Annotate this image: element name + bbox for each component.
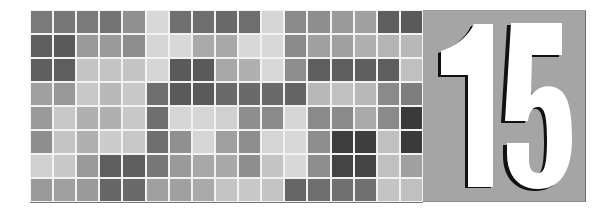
mosaic-cell	[262, 11, 283, 33]
mosaic-cell	[31, 35, 52, 57]
mosaic-cell	[31, 179, 52, 201]
mosaic-cell	[147, 11, 168, 33]
mosaic-cell	[170, 83, 191, 105]
mosaic-cell	[193, 59, 214, 81]
mosaic-cell	[77, 59, 98, 81]
mosaic-cell	[308, 155, 329, 177]
mosaic-cell	[100, 131, 121, 153]
mosaic-cell	[31, 155, 52, 177]
mosaic-cell	[262, 59, 283, 81]
mosaic-cell	[332, 107, 353, 129]
mosaic-cell	[193, 11, 214, 33]
mosaic-cell	[262, 35, 283, 57]
mosaic-cell	[262, 179, 283, 201]
mosaic-cell	[401, 155, 422, 177]
mosaic-cell	[239, 107, 260, 129]
mosaic-cell	[285, 83, 306, 105]
mosaic-cell	[216, 107, 237, 129]
mosaic-cell	[355, 155, 376, 177]
mosaic-cell	[216, 35, 237, 57]
mosaic-cell	[100, 155, 121, 177]
mosaic-cell	[285, 155, 306, 177]
mosaic-cell	[355, 179, 376, 201]
mosaic-cell	[147, 155, 168, 177]
mosaic-cell	[355, 107, 376, 129]
mosaic-cell	[308, 107, 329, 129]
mosaic-cell	[332, 59, 353, 81]
mosaic-cell	[332, 155, 353, 177]
mosaic-cell	[77, 107, 98, 129]
mosaic-cell	[193, 107, 214, 129]
mosaic-cell	[216, 179, 237, 201]
mosaic-cell	[308, 11, 329, 33]
mosaic-cell	[239, 179, 260, 201]
mosaic-cell	[216, 83, 237, 105]
mosaic-cell	[147, 179, 168, 201]
mosaic-cell	[401, 179, 422, 201]
mosaic-cell	[262, 131, 283, 153]
mosaic-cell	[170, 11, 191, 33]
mosaic-cell	[401, 59, 422, 81]
mosaic-cell	[378, 35, 399, 57]
mosaic-cell	[216, 59, 237, 81]
mosaic-cell	[308, 83, 329, 105]
mosaic-cell	[54, 107, 75, 129]
mosaic-cell	[77, 11, 98, 33]
mosaic-cell	[77, 35, 98, 57]
mosaic-cell	[77, 179, 98, 201]
mosaic-cell	[332, 131, 353, 153]
mosaic-cell	[378, 11, 399, 33]
mosaic-cell	[239, 59, 260, 81]
mosaic-cell	[285, 107, 306, 129]
mosaic-cell	[216, 155, 237, 177]
mosaic-cell	[170, 179, 191, 201]
mosaic-cell	[77, 155, 98, 177]
mosaic-cell	[100, 107, 121, 129]
mosaic-cell	[123, 107, 144, 129]
mosaic-cell	[54, 179, 75, 201]
mosaic-cell	[216, 131, 237, 153]
mosaic-cell	[100, 59, 121, 81]
mosaic-cell	[123, 35, 144, 57]
mosaic-cell	[355, 131, 376, 153]
mosaic-cell	[147, 83, 168, 105]
mosaic-cell	[239, 83, 260, 105]
mosaic-cell	[123, 131, 144, 153]
mosaic-cell	[31, 59, 52, 81]
gray-mosaic-grid	[30, 10, 423, 203]
mosaic-cell	[31, 107, 52, 129]
mosaic-cell	[31, 11, 52, 33]
mosaic-cell	[332, 179, 353, 201]
mosaic-cell	[31, 83, 52, 105]
mosaic-cell	[100, 83, 121, 105]
mosaic-cell	[193, 131, 214, 153]
mosaic-cell	[401, 83, 422, 105]
mosaic-cell	[54, 59, 75, 81]
mosaic-cell	[401, 11, 422, 33]
chapter-number-panel: 15	[423, 10, 586, 202]
mosaic-cell	[262, 155, 283, 177]
mosaic-cell	[378, 107, 399, 129]
mosaic-cell	[378, 83, 399, 105]
mosaic-cell	[100, 11, 121, 33]
mosaic-cell	[332, 35, 353, 57]
mosaic-cell	[308, 131, 329, 153]
mosaic-cell	[285, 179, 306, 201]
mosaic-cell	[332, 11, 353, 33]
mosaic-cell	[77, 131, 98, 153]
mosaic-cell	[401, 131, 422, 153]
mosaic-cell	[170, 35, 191, 57]
mosaic-cell	[123, 155, 144, 177]
mosaic-cell	[239, 131, 260, 153]
mosaic-cell	[355, 83, 376, 105]
mosaic-cell	[239, 155, 260, 177]
mosaic-cell	[378, 155, 399, 177]
mosaic-cell	[123, 83, 144, 105]
mosaic-cell	[285, 131, 306, 153]
mosaic-cell	[239, 11, 260, 33]
mosaic-cell	[100, 179, 121, 201]
mosaic-cell	[378, 59, 399, 81]
mosaic-cell	[355, 11, 376, 33]
mosaic-cell	[147, 107, 168, 129]
mosaic-cell	[193, 179, 214, 201]
